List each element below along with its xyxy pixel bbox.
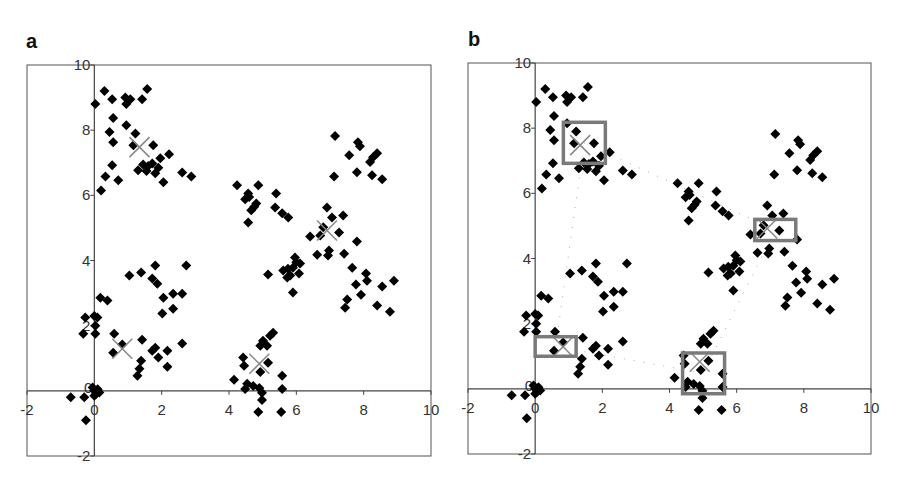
data-point <box>796 288 806 298</box>
data-point <box>377 282 387 292</box>
data-point <box>791 278 801 288</box>
data-point <box>575 362 585 372</box>
data-point <box>104 127 114 137</box>
data-point <box>541 169 551 179</box>
data-point <box>756 228 766 238</box>
data-point <box>591 258 601 268</box>
data-point <box>784 148 794 158</box>
data-point <box>578 92 588 102</box>
data-point <box>277 384 287 394</box>
x-tick-label: 6 <box>292 401 300 418</box>
data-point <box>372 300 382 310</box>
data-point <box>177 339 187 349</box>
x-tick-label: -2 <box>461 399 474 416</box>
data-point <box>583 82 593 92</box>
data-point <box>168 304 178 314</box>
data-point <box>603 344 613 354</box>
data-point <box>90 99 100 109</box>
data-point <box>598 307 608 317</box>
data-point <box>339 249 349 259</box>
data-point <box>507 390 517 400</box>
x-tick-label: 4 <box>225 401 233 418</box>
data-point <box>817 172 827 182</box>
data-point <box>548 158 558 168</box>
data-point <box>330 131 340 141</box>
data-point <box>703 268 713 278</box>
data-point <box>288 287 298 297</box>
y-tick-label: 10 <box>514 54 531 71</box>
data-point <box>670 373 680 383</box>
data-point <box>352 167 362 177</box>
x-tick-label: 10 <box>423 401 440 418</box>
data-point <box>599 175 609 185</box>
data-point <box>164 149 174 159</box>
data-point <box>108 137 118 147</box>
data-point <box>340 303 350 313</box>
x-tick-label: 6 <box>732 399 740 416</box>
data-point <box>243 217 253 227</box>
data-point <box>694 405 704 415</box>
data-point <box>712 186 722 196</box>
data-point <box>711 200 721 210</box>
data-point <box>132 371 142 381</box>
data-point <box>153 353 163 363</box>
data-point <box>155 153 165 163</box>
data-point <box>342 295 352 305</box>
data-point <box>778 209 788 219</box>
x-tick-label: -2 <box>20 401 33 418</box>
data-point <box>774 225 784 235</box>
data-point <box>148 140 158 150</box>
data-point <box>537 183 547 193</box>
data-point <box>253 407 263 417</box>
data-point <box>802 274 812 284</box>
data-point <box>157 309 167 319</box>
data-point <box>263 270 273 280</box>
y-tick-label: 6 <box>82 186 90 203</box>
data-point <box>134 364 144 374</box>
data-point <box>540 84 550 94</box>
data-point <box>329 171 339 181</box>
data-point <box>577 266 587 276</box>
x-tick-label: 10 <box>863 399 880 416</box>
data-point <box>548 92 558 102</box>
data-point <box>253 180 263 190</box>
data-point <box>389 276 399 286</box>
data-point <box>239 361 249 371</box>
data-point <box>100 171 110 181</box>
panel-b-plot: -20246810-20246810 <box>461 54 879 462</box>
data-point <box>627 169 637 179</box>
data-point <box>90 329 100 339</box>
data-point <box>162 362 172 372</box>
x-tick-label: 0 <box>531 399 539 416</box>
data-point <box>549 111 559 121</box>
data-point <box>356 290 366 300</box>
data-point <box>792 165 802 175</box>
data-point <box>684 215 694 225</box>
data-point <box>770 129 780 139</box>
data-point <box>136 356 146 366</box>
data-point <box>622 258 632 268</box>
data-point <box>352 237 362 247</box>
data-point <box>322 202 332 212</box>
x-tick-label: 2 <box>598 399 606 416</box>
data-point <box>787 261 797 271</box>
y-tick-label: -2 <box>77 447 90 464</box>
data-point <box>728 285 738 295</box>
data-point <box>109 329 119 339</box>
y-tick-label: 8 <box>523 119 531 136</box>
data-point <box>334 227 344 237</box>
data-point <box>351 280 361 290</box>
data-point <box>130 128 140 138</box>
data-point <box>769 169 779 179</box>
data-point <box>694 178 704 188</box>
data-point <box>554 173 564 183</box>
data-point <box>673 178 683 188</box>
data-point <box>545 125 555 135</box>
data-point <box>362 276 372 286</box>
data-point <box>142 84 152 94</box>
data-point <box>571 126 581 136</box>
data-point <box>271 188 281 198</box>
data-point <box>162 346 172 356</box>
data-point <box>531 97 541 107</box>
data-point <box>238 353 248 363</box>
